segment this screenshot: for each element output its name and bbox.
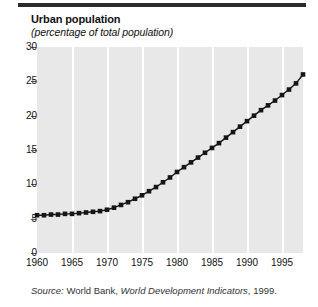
- source-work: World Development Indicators: [121, 285, 248, 296]
- x-tick-label-1980: 1980: [160, 257, 194, 268]
- x-tick-label-1960: 1960: [20, 257, 54, 268]
- x-tick-label-1985: 1985: [195, 257, 229, 268]
- figure: Urban population (percentage of total po…: [0, 0, 318, 307]
- source-year: , 1999.: [248, 285, 277, 296]
- x-tick-label-1990: 1990: [230, 257, 264, 268]
- x-tick-label-1995: 1995: [265, 257, 299, 268]
- plot-wrapper: 051015202530 196019651970197519801985199…: [0, 0, 318, 307]
- x-tick-label-1975: 1975: [125, 257, 159, 268]
- x-axis: 19601965197019751980198519901995: [0, 0, 318, 307]
- source-note: Source: World Bank, World Development In…: [31, 285, 277, 296]
- x-tick-label-1970: 1970: [90, 257, 124, 268]
- source-prefix: Source:: [31, 285, 64, 296]
- x-tick-label-1965: 1965: [55, 257, 89, 268]
- source-publisher: World Bank,: [66, 285, 118, 296]
